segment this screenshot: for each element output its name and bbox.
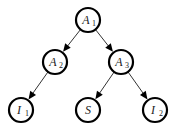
node-label: A: [48, 55, 57, 69]
node-label: A: [114, 55, 123, 69]
edge-a3-to-s: [95, 72, 114, 99]
arrowhead-icon: [29, 91, 36, 100]
arrowhead-icon: [140, 91, 147, 100]
arrowhead-icon: [95, 91, 102, 100]
node-label: S: [85, 103, 91, 117]
arrowhead-icon: [63, 43, 71, 51]
node-subscript: 2: [59, 61, 63, 70]
node-subscript: 1: [25, 109, 29, 118]
node-subscript: 3: [125, 61, 129, 70]
edge-line: [99, 72, 114, 94]
node-a1: A1: [76, 8, 100, 32]
node-a2: A2: [43, 50, 67, 74]
edge-a1-to-a2: [63, 29, 81, 51]
arrowhead-icon: [105, 43, 113, 51]
node-subscript: 2: [159, 109, 163, 118]
node-circle: [143, 98, 167, 122]
nodes-layer: A1A2A3I1SI2: [9, 8, 167, 122]
edge-line: [67, 29, 81, 47]
node-label: A: [81, 13, 90, 27]
node-i2: I2: [143, 98, 167, 122]
node-a3: A3: [109, 50, 133, 74]
edge-a2-to-i1: [29, 72, 49, 100]
edge-a1-to-a3: [95, 29, 113, 51]
node-subscript: 1: [92, 19, 96, 28]
edge-line: [32, 72, 48, 95]
edge-a3-to-i2: [128, 72, 148, 100]
node-circle: [9, 98, 33, 122]
edge-line: [95, 29, 109, 47]
node-i1: I1: [9, 98, 33, 122]
edge-line: [128, 72, 144, 95]
tree-diagram: A1A2A3I1SI2: [0, 0, 177, 133]
node-s: S: [76, 98, 100, 122]
